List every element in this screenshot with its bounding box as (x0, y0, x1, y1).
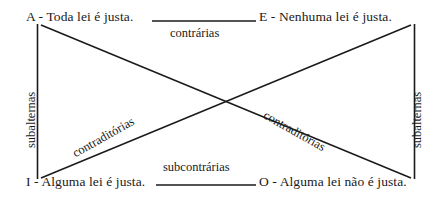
vertex-label-a: A - Toda lei é justa. (26, 9, 133, 25)
relation-label-subalternas-left: subalternas (24, 92, 39, 148)
relation-label-contrarias: contrárias (170, 26, 219, 41)
relation-label-subcontrarias: subcontrárias (163, 160, 230, 175)
vertex-label-o: O - Alguma lei não é justa. (259, 174, 407, 190)
vertex-label-e: E - Nenhuma lei é justa. (259, 9, 392, 25)
vertex-label-i: I - Alguma lei é justa. (26, 174, 145, 190)
square-of-opposition-diagram: A - Toda lei é justa. E - Nenhuma lei é … (0, 0, 443, 202)
relation-label-subalternas-right: subalternas (410, 92, 425, 148)
